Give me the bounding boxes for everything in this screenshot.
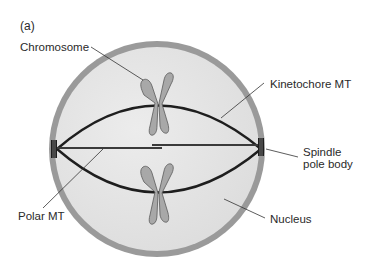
spindle-diagram xyxy=(0,0,366,266)
label-polar-mt: Polar MT xyxy=(18,210,65,223)
label-chromosome: Chromosome xyxy=(20,41,89,54)
label-nucleus: Nucleus xyxy=(270,213,312,226)
label-kinetochore-mt: Kinetochore MT xyxy=(270,78,351,91)
spindle-pole-body-left xyxy=(51,140,57,158)
label-spindle-pole-body-line2: pole body xyxy=(303,158,353,171)
panel-label: (a) xyxy=(20,20,35,33)
spindle-pole-body-right xyxy=(258,138,264,156)
leader-spindle-pole-body xyxy=(266,149,298,157)
